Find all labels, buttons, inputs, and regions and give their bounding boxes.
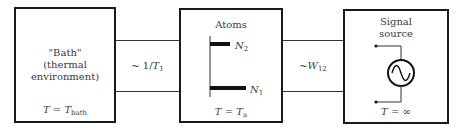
diagram-graphics: [0, 0, 462, 131]
ac-source-icon: [374, 44, 414, 103]
level-n2-bar: [210, 42, 230, 46]
energy-level-diagram: [210, 36, 246, 97]
level-n1-bar: [210, 86, 246, 90]
